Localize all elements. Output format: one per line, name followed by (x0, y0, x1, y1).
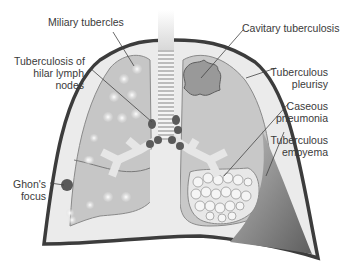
label-caseous-line2: pneumonia (276, 112, 328, 124)
label-miliary-tubercles: Miliary tubercles (48, 16, 124, 28)
cavitary-lesion (184, 60, 221, 95)
label-hilar-line2: hilar lymph (14, 67, 84, 79)
label-empyema-line1: Tuberculous (268, 134, 328, 146)
label-tuberculous-pleurisy: Tuberculous pleurisy (268, 66, 328, 90)
mediastinum (150, 147, 180, 233)
label-caseous-line1: Caseous (276, 100, 328, 112)
label-pleurisy-line2: pleurisy (268, 78, 328, 90)
label-hilar-line3: nodes (14, 79, 84, 91)
label-tuberculous-empyema: Tuberculous empyema (268, 134, 328, 158)
label-empyema-line2: empyema (268, 146, 328, 158)
caseous-pneumonia (188, 168, 259, 224)
label-hilar-line1: Tuberculosis of (14, 55, 84, 67)
label-hilar-lymph-nodes: Tuberculosis of hilar lymph nodes (14, 55, 84, 91)
label-pleurisy-line1: Tuberculous (268, 66, 328, 78)
label-ghons-focus: Ghon's focus (6, 178, 46, 202)
label-cavitary-tuberculosis: Cavitary tuberculosis (242, 22, 339, 34)
trachea (158, 10, 174, 140)
label-ghons-line1: Ghon's (6, 178, 46, 190)
label-caseous-pneumonia: Caseous pneumonia (276, 100, 328, 124)
label-ghons-line2: focus (6, 190, 46, 202)
